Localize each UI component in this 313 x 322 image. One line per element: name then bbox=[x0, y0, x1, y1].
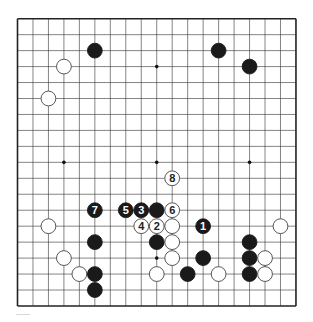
black-stone bbox=[149, 203, 164, 218]
black-stone bbox=[149, 235, 164, 250]
white-stone bbox=[258, 251, 273, 266]
white-stone bbox=[149, 267, 164, 282]
white-stone bbox=[273, 219, 288, 234]
move-number: 5 bbox=[123, 204, 129, 216]
move-1: 1 bbox=[196, 219, 211, 234]
move-number: 1 bbox=[200, 220, 206, 232]
move-number: 2 bbox=[154, 220, 160, 232]
star-point bbox=[155, 161, 159, 165]
numbered-moves-layer: 12345678 bbox=[87, 171, 210, 234]
black-stone bbox=[242, 267, 257, 282]
move-3: 3 bbox=[134, 203, 149, 218]
black-stone bbox=[87, 235, 102, 250]
star-point bbox=[155, 256, 159, 260]
star-point bbox=[62, 161, 66, 165]
black-stone bbox=[211, 43, 226, 58]
black-stone bbox=[242, 59, 257, 74]
move-4: 4 bbox=[134, 219, 149, 234]
move-number: 8 bbox=[169, 172, 175, 184]
white-stone bbox=[211, 267, 226, 282]
black-stone bbox=[196, 251, 211, 266]
black-stone bbox=[242, 251, 257, 266]
move-number: 7 bbox=[92, 204, 98, 216]
go-board: 12345678 bbox=[0, 0, 313, 322]
black-stone bbox=[87, 267, 102, 282]
move-7: 7 bbox=[87, 203, 102, 218]
white-stone bbox=[165, 251, 180, 266]
white-stone bbox=[165, 219, 180, 234]
move-6: 6 bbox=[165, 203, 180, 218]
move-5: 5 bbox=[118, 203, 133, 218]
white-stone bbox=[165, 235, 180, 250]
stones-layer bbox=[41, 43, 288, 297]
white-stone bbox=[72, 267, 87, 282]
move-number: 3 bbox=[138, 204, 144, 216]
caption-fragment bbox=[16, 314, 30, 315]
black-stone bbox=[242, 235, 257, 250]
move-2: 2 bbox=[149, 219, 164, 234]
black-stone bbox=[180, 267, 195, 282]
white-stone bbox=[41, 219, 56, 234]
white-stone bbox=[57, 59, 72, 74]
white-stone bbox=[57, 251, 72, 266]
white-stone bbox=[258, 267, 273, 282]
star-point bbox=[155, 65, 159, 69]
black-stone bbox=[87, 43, 102, 58]
star-point bbox=[248, 161, 252, 165]
move-number: 6 bbox=[169, 204, 175, 216]
black-stone bbox=[87, 283, 102, 298]
move-number: 4 bbox=[138, 220, 145, 232]
move-8: 8 bbox=[165, 171, 180, 186]
white-stone bbox=[41, 91, 56, 106]
